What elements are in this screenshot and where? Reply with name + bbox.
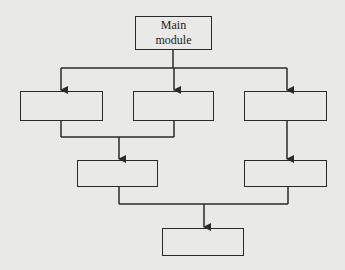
main-module-label-line2: module (156, 33, 192, 48)
main-module-label-line1: Main (156, 18, 192, 33)
module-box-a (20, 91, 103, 121)
main-module-box: Main module (135, 16, 212, 50)
module-box-d (77, 160, 158, 187)
module-box-f (162, 228, 244, 256)
module-box-e (244, 160, 327, 187)
module-box-c (244, 91, 327, 121)
module-box-b (133, 91, 214, 121)
